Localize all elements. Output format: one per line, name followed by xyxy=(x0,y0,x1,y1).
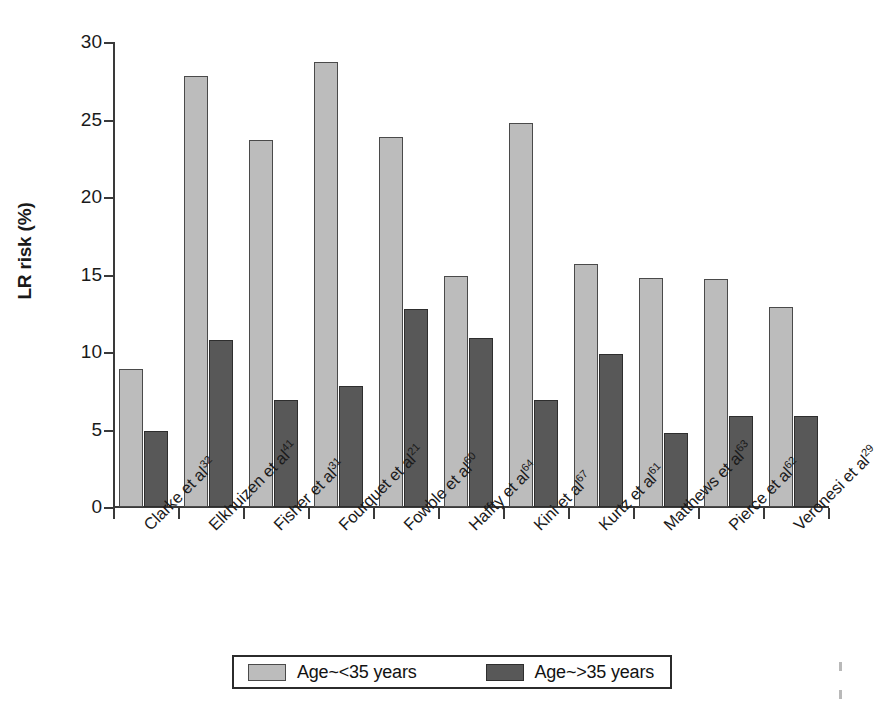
bar-age-over-35 xyxy=(469,338,493,507)
y-tick-mark xyxy=(104,275,113,277)
bar-age-over-35 xyxy=(599,354,623,507)
y-tick-label: 5 xyxy=(58,419,102,441)
bar-age-over-35 xyxy=(404,309,428,507)
y-tick-mark xyxy=(104,42,113,44)
legend-entry-dark: Age~>35 years xyxy=(486,662,655,683)
x-tick-mark xyxy=(698,508,700,519)
plot-area xyxy=(113,42,828,507)
bar-age-under-35 xyxy=(314,62,338,507)
bar-age-under-35 xyxy=(184,76,208,507)
bar-age-over-35 xyxy=(339,386,363,507)
y-tick-label: 10 xyxy=(58,341,102,363)
bar-age-over-35 xyxy=(209,340,233,507)
y-tick-label: 25 xyxy=(58,109,102,131)
y-tick-mark xyxy=(104,120,113,122)
y-tick-mark xyxy=(104,352,113,354)
y-tick-mark xyxy=(104,197,113,199)
page-edge-mark-top xyxy=(839,662,842,671)
legend-swatch-dark-icon xyxy=(486,664,524,681)
x-tick-mark xyxy=(438,508,440,519)
x-tick-mark xyxy=(243,508,245,519)
y-tick-label: 20 xyxy=(58,186,102,208)
y-tick-mark xyxy=(104,430,113,432)
x-tick-mark xyxy=(178,508,180,519)
legend-label-dark: Age~>35 years xyxy=(535,662,655,683)
legend-swatch-light-icon xyxy=(248,664,286,681)
legend-label-light: Age~<35 years xyxy=(297,662,417,683)
x-tick-mark xyxy=(113,508,115,519)
x-tick-mark xyxy=(308,508,310,519)
chart-legend: Age~<35 years Age~>35 years xyxy=(232,655,672,689)
x-tick-mark xyxy=(568,508,570,519)
y-tick-label: 30 xyxy=(58,31,102,53)
legend-entry-light: Age~<35 years xyxy=(248,662,417,683)
x-tick-mark xyxy=(503,508,505,519)
bar-age-over-35 xyxy=(534,400,558,507)
y-tick-label: 15 xyxy=(58,264,102,286)
x-tick-mark xyxy=(633,508,635,519)
bar-age-under-35 xyxy=(119,369,143,507)
y-tick-label: 0 xyxy=(58,496,102,518)
x-tick-mark xyxy=(373,508,375,519)
y-tick-mark xyxy=(104,507,113,509)
bar-age-under-35 xyxy=(509,123,533,507)
x-tick-mark xyxy=(763,508,765,519)
bar-age-under-35 xyxy=(249,140,273,507)
x-tick-mark xyxy=(828,508,830,519)
bar-age-under-35 xyxy=(379,137,403,507)
page-edge-mark-bottom xyxy=(839,690,842,699)
y-axis-title: LR risk (%) xyxy=(14,171,36,331)
